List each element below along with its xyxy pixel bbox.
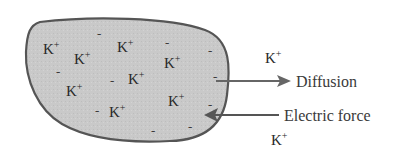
negative-charge: - — [208, 43, 212, 58]
negative-charge: - — [56, 64, 60, 79]
electric-force-arrow: Electric force — [204, 107, 371, 124]
outside-ions: K+ K+ — [265, 48, 288, 148]
negative-charge: - — [97, 26, 101, 41]
potassium-ion-outside: K+ — [265, 48, 282, 66]
negative-charge: - — [110, 73, 114, 88]
negative-charge: - — [165, 35, 169, 50]
negative-charge: - — [208, 97, 212, 112]
diffusion-arrow: Diffusion — [216, 73, 357, 90]
electric-force-label: Electric force — [284, 107, 371, 124]
negative-charge: - — [188, 119, 192, 134]
membrane-potential-diagram: K+ K+ K+ K+ K+ K+ K+ K+ - - - - - - - - … — [0, 0, 414, 165]
diffusion-label: Diffusion — [296, 73, 357, 90]
negative-charge: - — [95, 103, 99, 118]
negative-charge: - — [151, 123, 155, 138]
potassium-ion-outside: K+ — [271, 130, 288, 148]
